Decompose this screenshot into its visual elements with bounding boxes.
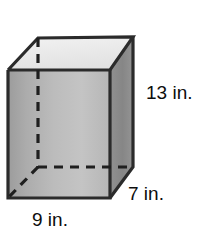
width-dimension-label: 9 in.: [32, 210, 68, 229]
depth-dimension-label: 7 in.: [128, 184, 164, 203]
height-dimension-label: 13 in.: [146, 83, 192, 102]
prism-front-face: [8, 70, 110, 198]
prism-illustration: [0, 0, 215, 242]
rectangular-prism-figure: 13 in. 7 in. 9 in.: [0, 0, 215, 242]
